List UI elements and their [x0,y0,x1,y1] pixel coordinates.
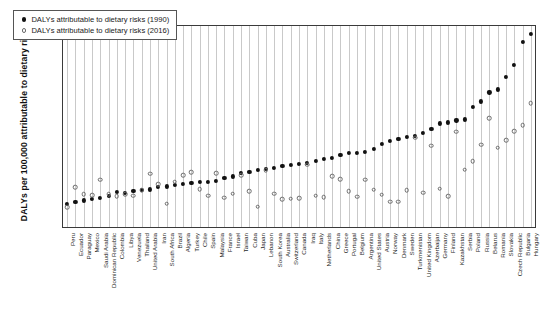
x-tick-mark [291,227,292,228]
data-point-2016 [529,101,534,106]
x-tick-label: Austria [383,233,390,252]
data-point-2016 [413,135,418,140]
x-tick-label: Kazakhstan [458,233,465,265]
x-tick-mark [340,227,341,228]
data-point-1990 [446,120,450,124]
gridline [407,26,408,227]
x-tick-label: South Africa [168,233,175,266]
data-point-2016 [264,168,269,173]
data-point-1990 [529,32,533,36]
x-tick-label: Russia [483,233,490,252]
gridline [191,26,192,227]
data-point-1990 [371,147,375,151]
x-tick-label: Belgium [358,233,365,255]
data-point-1990 [512,63,516,67]
data-point-1990 [363,150,367,154]
data-point-1990 [454,118,458,122]
x-tick-label: Thailand [143,233,150,257]
x-tick-mark [398,227,399,228]
x-tick-mark [324,227,325,228]
data-point-2016 [330,174,335,179]
data-point-1990 [181,182,185,186]
data-point-1990 [463,117,467,121]
data-point-2016 [197,187,202,192]
data-point-1990 [504,75,508,79]
x-tick-mark [216,227,217,228]
data-point-2016 [346,189,351,194]
data-point-1990 [164,184,168,188]
gridline [274,26,275,227]
x-tick-mark [117,227,118,228]
data-point-1990 [297,162,301,166]
gridline [241,26,242,227]
x-tick-mark [150,227,151,228]
x-tick-mark [175,227,176,228]
data-point-1990 [471,105,475,109]
data-point-1990 [347,151,351,155]
data-point-2016 [380,193,385,198]
x-tick-mark [158,227,159,228]
x-tick-label: Saudi Arabia [102,233,109,268]
x-tick-mark [266,227,267,228]
data-point-1990 [247,169,251,173]
data-point-1990 [280,164,284,168]
gridline [183,26,184,227]
x-tick-label: Belarus [491,233,498,254]
data-point-1990 [231,174,235,178]
gridline [481,26,482,227]
x-tick-label: Sweden [408,233,415,255]
x-tick-label: France [226,233,233,252]
x-tick-label: Denmark [400,233,407,258]
x-tick-mark [249,227,250,228]
x-tick-mark [332,227,333,228]
x-tick-mark [109,227,110,228]
x-tick-label: United Kingdom [425,233,432,277]
x-tick-mark [167,227,168,228]
x-tick-label: Japan [259,233,266,250]
gridline [506,26,507,227]
data-point-1990 [214,179,218,183]
x-tick-mark [316,227,317,228]
x-tick-label: Turkey [193,233,200,252]
gridline [307,26,308,227]
data-point-1990 [289,163,293,167]
x-tick-label: Spain [209,233,216,249]
data-point-2016 [421,191,426,196]
x-tick-label: Hungary [532,233,539,256]
x-tick-label: Venezuela [135,233,142,262]
x-tick-label: Iran [160,233,167,244]
x-tick-label: Chile [201,233,208,247]
gridline [498,26,499,227]
x-tick-mark [390,227,391,228]
x-tick-mark [481,227,482,228]
gridline [125,26,126,227]
x-tick-mark [75,227,76,228]
data-point-2016 [230,192,235,197]
data-point-1990 [388,138,392,142]
gridline [423,26,424,227]
x-tick-mark [431,227,432,228]
data-point-2016 [462,167,467,172]
x-tick-label: United Arabia [151,233,158,270]
data-point-1990 [330,156,334,160]
x-tick-mark [448,227,449,228]
x-tick-mark [531,227,532,228]
filled-circle-icon [22,17,26,21]
gridline [349,26,350,227]
gridline [158,26,159,227]
x-tick-label: Germany [441,233,448,258]
y-tick-mark [62,106,63,107]
y-axis-title: DALYs per 100,000 attributable to dietar… [19,13,29,233]
gridline [216,26,217,227]
x-tick-label: Switzerland [292,233,299,265]
chart-legend: DALYs attributable to dietary risks (199… [13,10,177,40]
data-point-1990 [256,168,260,172]
gridline [332,26,333,227]
data-point-2016 [297,196,302,201]
x-tick-mark [473,227,474,228]
data-point-1990 [82,198,86,202]
gridline [175,26,176,227]
data-point-2016 [338,177,343,182]
data-point-1990 [396,137,400,141]
x-axis-labels: PeruEcuadorParaguayMexicoSaudi ArabiaDom… [62,233,536,309]
